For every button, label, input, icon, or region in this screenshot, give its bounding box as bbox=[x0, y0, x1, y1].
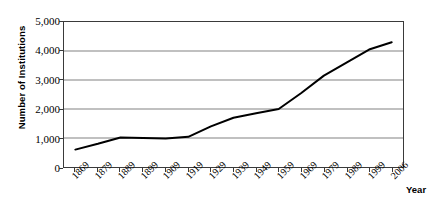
x-tick-mark bbox=[97, 168, 98, 172]
y-tick-mark bbox=[59, 168, 63, 169]
x-tick-mark bbox=[392, 168, 393, 172]
x-tick-mark bbox=[188, 168, 189, 172]
x-tick-mark bbox=[119, 168, 120, 172]
x-tick-mark bbox=[210, 168, 211, 172]
line-chart: Number of Institutions 01,0002,0003,0004… bbox=[0, 0, 446, 214]
x-tick-mark bbox=[74, 168, 75, 172]
x-tick-mark bbox=[233, 168, 234, 172]
y-tick-mark bbox=[59, 21, 63, 22]
x-tick-mark bbox=[369, 168, 370, 172]
x-tick-mark bbox=[142, 168, 143, 172]
x-tick-mark bbox=[324, 168, 325, 172]
y-tick-mark bbox=[59, 79, 63, 80]
y-tick-mark bbox=[59, 109, 63, 110]
y-tick-mark bbox=[59, 50, 63, 51]
y-tick-mark bbox=[59, 138, 63, 139]
x-axis-tick-labels: 1869187918891899190919191929193919491959… bbox=[0, 0, 446, 214]
x-tick-mark bbox=[301, 168, 302, 172]
x-tick-mark bbox=[347, 168, 348, 172]
x-tick-mark bbox=[278, 168, 279, 172]
x-axis-title: Year bbox=[406, 184, 426, 195]
x-tick-mark bbox=[256, 168, 257, 172]
x-tick-mark bbox=[165, 168, 166, 172]
